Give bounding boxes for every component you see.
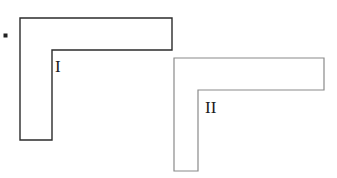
- bullet-dot: [4, 34, 8, 38]
- label-figure-2: II: [205, 98, 217, 117]
- l-shape-figure-2: [174, 58, 324, 171]
- figure-drawing: III: [0, 0, 337, 178]
- figure-canvas: III: [0, 0, 337, 178]
- label-figure-1: I: [55, 57, 61, 76]
- l-shape-figure-1: [20, 18, 172, 140]
